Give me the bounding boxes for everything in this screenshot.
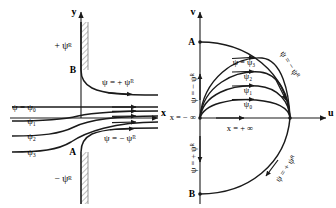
right-point-a-label: A	[188, 37, 195, 47]
right-u-axis-label: u	[328, 107, 334, 118]
streamline-lower-boundary-label: ψ = − ψᴿ	[104, 133, 136, 143]
left-point-a-label: A	[69, 147, 76, 157]
x-minus-infinity-label: x = − ∞	[170, 112, 196, 122]
arc-psi1-label: ψ₁	[244, 85, 252, 95]
streamline-upper-boundary-label: ψ = + ψᴿ	[102, 77, 134, 87]
streamline-psi2-label: ψ₂	[27, 131, 36, 141]
x-plus-infinity-label: x = + ∞	[227, 123, 253, 133]
streamline-psi0-label: ψ = ψ₀	[12, 102, 36, 112]
arc-psi2-label: ψ₂	[244, 71, 252, 81]
arc-psi3-label: ψ = ψ₃	[233, 57, 256, 67]
node-origin-dot	[198, 116, 202, 120]
streamline-psi3-arrow	[112, 122, 136, 123]
right-v-axis-label: v	[191, 6, 196, 17]
right-axis-upper-label: ψ = − ψᴿ	[188, 72, 198, 103]
node-b-dot	[198, 192, 202, 196]
right-panel-group: v u A B ψ = − ψᴿ ψ = + ψᴿ ψ = − ψᴿ ψ = +…	[170, 6, 334, 204]
left-point-b-label: B	[70, 65, 77, 75]
lower-wall-label: − ψᴿ	[54, 174, 72, 184]
left-panel-group: y x B A + ψᴿ − ψᴿ ψ = + ψᴿ ψ = − ψᴿ ψ = …	[10, 6, 166, 204]
upper-wall-label: + ψᴿ	[54, 41, 72, 51]
right-axis-lower-label: ψ = + ψᴿ	[188, 142, 198, 173]
figure-container: y x B A + ψᴿ − ψᴿ ψ = + ψᴿ ψ = − ψᴿ ψ = …	[0, 0, 336, 208]
streamline-psi3-label: ψ₃	[27, 147, 36, 157]
left-x-axis-label: x	[161, 107, 166, 118]
node-right-dot	[288, 116, 292, 120]
node-a-dot	[198, 40, 202, 44]
upper-wall-hatch	[81, 22, 88, 70]
left-y-axis-label: y	[72, 6, 77, 17]
lower-wall-hatch	[81, 152, 88, 204]
streamline-psi1-label: ψ₁	[27, 116, 36, 126]
flow-diagram-svg: y x B A + ψᴿ − ψᴿ ψ = + ψᴿ ψ = − ψᴿ ψ = …	[0, 0, 336, 208]
right-point-b-label: B	[189, 189, 196, 199]
arc-psi0-label: ψ₀	[244, 99, 252, 109]
